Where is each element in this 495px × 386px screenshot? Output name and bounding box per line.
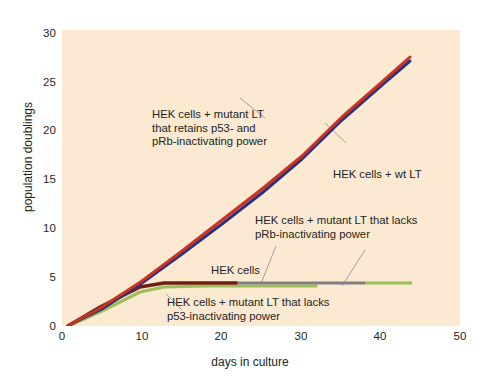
chart-figure: HEK cells + mutant LT that retains p53- … — [0, 0, 495, 386]
annotation-green-curve: HEK cells + mutant LT that lacks p53-ina… — [167, 296, 382, 323]
x-tick-40: 40 — [360, 330, 400, 342]
y-tick-30: 30 — [10, 27, 56, 39]
x-tick-20: 20 — [201, 330, 241, 342]
x-axis-title: days in culture — [150, 355, 350, 369]
y-tick-5: 5 — [10, 271, 56, 283]
annotation-blue-curve: HEK cells + wt LT — [333, 168, 473, 182]
y-axis-title: population doublings — [21, 67, 35, 247]
annotation-red-curve: HEK cells + mutant LT that retains p53- … — [152, 108, 322, 149]
plot-area: HEK cells + mutant LT that retains p53- … — [62, 30, 460, 326]
annotation-gray-segment: HEK cells + mutant LT that lacks pRb-ina… — [255, 214, 445, 241]
leader-line-darkred — [342, 250, 365, 286]
x-tick-10: 10 — [122, 330, 162, 342]
x-tick-0: 0 — [42, 330, 82, 342]
x-tick-30: 30 — [281, 330, 321, 342]
annotation-dark-red-segment: HEK cells — [211, 264, 291, 278]
x-tick-50: 50 — [440, 330, 480, 342]
